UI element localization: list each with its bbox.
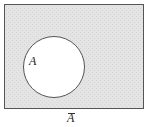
overbar: [68, 113, 75, 114]
venn-diagram: [0, 0, 146, 127]
set-a-label: A: [29, 54, 36, 69]
complement-label: A: [67, 111, 74, 126]
